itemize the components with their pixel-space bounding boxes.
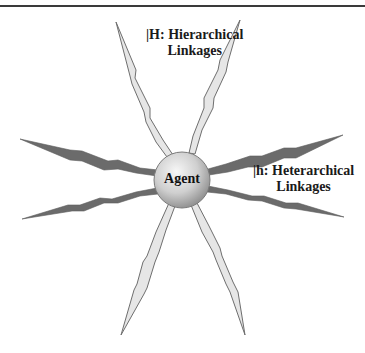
heterarchical-label-line1: |h: Heterarchical [253,163,354,179]
heterarchical-spike-left-lower [22,188,158,219]
heterarchical-label-line2: Linkages [253,179,354,195]
hierarchical-spike-bottom-right [191,203,245,335]
heterarchical-linkages-label: |h: Heterarchical Linkages [253,163,354,195]
heterarchical-spike-left-upper [20,139,158,176]
hierarchical-label-line1: |H: Hierarchical [146,27,243,43]
hierarchical-label-line2: Linkages [146,43,243,59]
agent-node-label: Agent [154,171,210,187]
hierarchical-linkages-label: |H: Hierarchical Linkages [146,27,243,59]
hierarchical-spike-bottom-left [121,203,175,335]
